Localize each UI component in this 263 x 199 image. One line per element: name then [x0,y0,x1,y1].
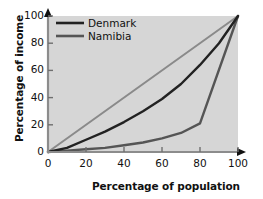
x-tick-label: 80 [189,157,211,169]
y-tick-label: 100 [16,9,44,21]
x-axis-title: Percentage of population [92,180,240,192]
y-tick-label: 20 [16,118,44,130]
y-tick-label: 60 [16,63,44,75]
y-tick-label: 0 [16,145,44,157]
lorenz-curve-figure: Denmark Namibia Percentage of income Per… [0,0,263,199]
x-tick-label: 0 [37,157,59,169]
y-tick-label: 40 [16,91,44,103]
y-tick-label: 80 [16,36,44,48]
legend-label-namibia: Namibia [88,30,131,42]
x-tick-label: 100 [227,157,249,169]
x-tick-label: 20 [75,157,97,169]
x-tick-label: 40 [113,157,135,169]
legend-label-denmark: Denmark [88,17,136,29]
x-tick-label: 60 [151,157,173,169]
